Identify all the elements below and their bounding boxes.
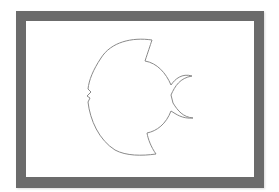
fish-body-path: [87, 39, 193, 155]
fish-outline-icon: [0, 0, 279, 192]
